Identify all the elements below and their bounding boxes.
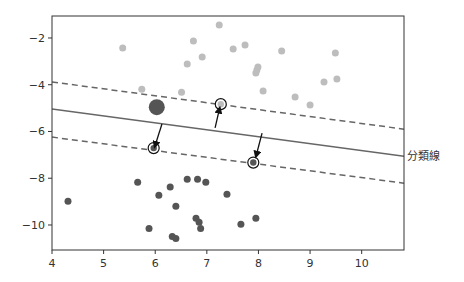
upper-margin-line	[52, 82, 404, 129]
data-point	[333, 75, 340, 82]
data-point	[260, 88, 267, 95]
x-tick-label: 10	[355, 257, 369, 270]
data-point	[242, 41, 249, 48]
lower-margin-line	[52, 137, 404, 183]
data-points	[65, 22, 341, 242]
data-point	[184, 176, 191, 183]
y-tick-label: −2	[29, 32, 45, 45]
data-point	[178, 89, 185, 96]
annotations: 分類線	[407, 149, 440, 163]
data-point	[167, 184, 174, 191]
margin-arrows	[155, 108, 262, 157]
svm-scatter-chart: 45678910 −2−4−6−8−10 分類線	[0, 0, 464, 282]
data-point	[138, 86, 145, 93]
highlighted-point	[149, 99, 165, 115]
decision-boundary-label: 分類線	[407, 149, 440, 163]
data-point	[196, 219, 203, 226]
data-point	[252, 70, 259, 77]
decision-boundary-line	[52, 109, 404, 156]
data-point	[172, 235, 179, 242]
data-point	[134, 179, 141, 186]
data-point	[197, 225, 204, 232]
data-point	[216, 22, 223, 29]
support-vector-point	[250, 159, 256, 165]
x-tick-label: 9	[307, 257, 314, 270]
data-point	[332, 49, 339, 56]
data-point	[146, 225, 153, 232]
arrow-icon	[155, 124, 162, 147]
y-tick-label: −8	[29, 172, 45, 185]
data-point	[230, 45, 237, 52]
y-tick-label: −4	[29, 79, 45, 92]
data-point	[252, 215, 259, 222]
x-tick-label: 5	[100, 257, 107, 270]
data-point	[321, 78, 328, 85]
data-point	[65, 198, 72, 205]
data-point	[155, 192, 162, 199]
x-axis: 45678910	[49, 250, 369, 270]
plot-area	[52, 22, 404, 242]
arrow-icon	[215, 108, 220, 128]
x-tick-label: 8	[255, 257, 262, 270]
data-point	[292, 94, 299, 101]
support-vector-point	[150, 145, 156, 151]
data-point	[119, 45, 126, 52]
support-vector-point	[218, 101, 224, 107]
data-point	[278, 48, 285, 55]
data-point	[172, 203, 179, 210]
data-point	[194, 176, 201, 183]
data-point	[307, 102, 314, 109]
boundary-lines	[52, 82, 404, 183]
y-tick-label: −6	[29, 125, 45, 138]
y-axis: −2−4−6−8−10	[22, 32, 52, 232]
data-point	[223, 191, 230, 198]
data-point	[190, 38, 197, 45]
x-tick-label: 4	[49, 257, 56, 270]
x-tick-label: 6	[152, 257, 159, 270]
data-point	[237, 221, 244, 228]
data-point	[199, 53, 206, 60]
data-point	[184, 60, 191, 67]
data-point	[202, 179, 209, 186]
x-tick-label: 7	[203, 257, 210, 270]
y-tick-label: −10	[22, 219, 45, 232]
